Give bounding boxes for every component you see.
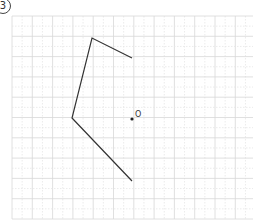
point-o-label: O	[135, 110, 141, 119]
grid-diagram: O	[0, 0, 253, 224]
polyline-figure	[72, 38, 132, 181]
point-o-dot	[130, 117, 133, 120]
